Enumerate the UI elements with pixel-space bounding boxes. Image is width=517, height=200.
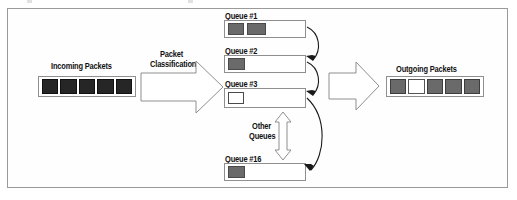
service-arrowheads <box>304 55 316 171</box>
packet-queueing-diagram: Incoming Packets Packet Classification Q… <box>0 0 517 200</box>
packet-classification-arrow-icon <box>141 61 223 113</box>
service-arrow-q2-to-q3 <box>307 62 319 95</box>
scheduler-output-arrow-icon <box>329 62 379 110</box>
arrow-layer <box>0 0 517 200</box>
other-queues-double-arrow-icon <box>275 112 291 160</box>
service-curves <box>307 27 322 170</box>
service-arrow-q1-to-q2 <box>307 27 319 60</box>
service-arrow-q3-to-q16 <box>307 98 322 170</box>
arrowhead-q2 <box>306 55 316 61</box>
arrowhead-q3 <box>306 90 316 96</box>
arrowhead-q16 <box>304 164 314 171</box>
